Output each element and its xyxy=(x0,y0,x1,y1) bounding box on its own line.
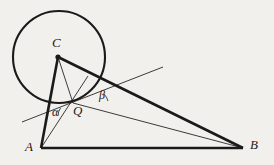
figure-canvas xyxy=(0,0,274,165)
point-label-Q: Q xyxy=(73,104,82,117)
point-label-B: B xyxy=(250,138,258,151)
angle-arc-alpha xyxy=(58,108,61,116)
angle-label-alpha: α xyxy=(52,106,58,118)
geometry-figure: C Q A B α β xyxy=(0,0,274,165)
point-label-C: C xyxy=(52,36,61,49)
point-dot-C xyxy=(55,54,60,59)
point-label-A: A xyxy=(25,140,33,153)
segment-CB xyxy=(58,57,243,148)
angle-label-beta: β xyxy=(99,89,105,101)
segment-QB xyxy=(73,103,243,148)
